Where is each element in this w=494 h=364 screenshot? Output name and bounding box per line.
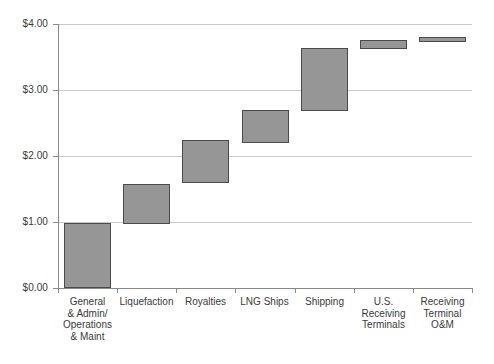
y-axis-tick-4 [53, 24, 58, 25]
gridline-300 [58, 90, 472, 91]
bar-2[interactable] [182, 140, 229, 183]
bar-4[interactable] [301, 48, 348, 111]
y-axis-label: $4.00 [2, 19, 48, 29]
gridline-200 [58, 156, 472, 157]
bar-3[interactable] [242, 110, 289, 143]
x-axis-line [58, 288, 472, 289]
x-axis-tick-7 [472, 288, 473, 293]
x-axis-label-0: General & Admin/ Operations & Maint [58, 296, 117, 342]
y-axis-tick-2 [53, 156, 58, 157]
bar-5[interactable] [360, 40, 407, 49]
gridline-100 [58, 222, 472, 223]
x-axis-label-3: LNG Ships [235, 296, 294, 308]
x-axis-tick-6 [413, 288, 414, 293]
bar-0[interactable] [64, 223, 111, 288]
x-axis-label-6: Receiving Terminal O&M [413, 296, 472, 331]
x-axis-tick-3 [235, 288, 236, 293]
x-axis-tick-4 [295, 288, 296, 293]
y-axis-label: $2.00 [2, 151, 48, 161]
x-axis-tick-2 [176, 288, 177, 293]
bar-1[interactable] [123, 184, 170, 224]
x-axis-tick-5 [354, 288, 355, 293]
y-axis-label: $0.00 [2, 283, 48, 293]
x-axis-tick-0 [58, 288, 59, 293]
y-axis-tick-1 [53, 222, 58, 223]
x-axis-label-2: Royalties [176, 296, 235, 308]
x-axis-label-1: Liquefaction [117, 296, 176, 308]
y-axis-label: $3.00 [2, 85, 48, 95]
y-axis-line [58, 24, 59, 288]
bar-6[interactable] [419, 37, 466, 42]
x-axis-tick-1 [117, 288, 118, 293]
y-axis-tick-3 [53, 90, 58, 91]
y-axis-label: $1.00 [2, 217, 48, 227]
x-axis-label-5: U.S. Receiving Terminals [354, 296, 413, 331]
gridline-400 [58, 24, 472, 25]
waterfall-chart: $0.00$1.00$2.00$3.00$4.00 General & Admi… [0, 0, 494, 364]
x-axis-label-4: Shipping [295, 296, 354, 308]
